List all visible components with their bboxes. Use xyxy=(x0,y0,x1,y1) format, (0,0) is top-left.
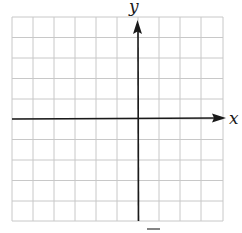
x-axis-label: x xyxy=(229,108,239,128)
coordinate-plane: x y xyxy=(0,0,242,233)
x-axis-arrow-icon xyxy=(212,114,226,123)
x-axis xyxy=(12,114,226,123)
y-axis-label: y xyxy=(128,0,139,16)
